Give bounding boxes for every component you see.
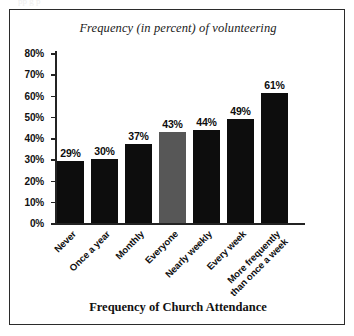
bar[interactable]: 30%	[91, 159, 118, 223]
y-axis-tick: 60%	[51, 96, 56, 98]
bar[interactable]: 49%	[227, 119, 254, 223]
bar-value-label: 43%	[162, 118, 182, 130]
bar-value-label: 49%	[230, 105, 250, 117]
bar-value-label: 29%	[60, 147, 80, 159]
y-axis-tick: 0%	[51, 223, 56, 225]
bar[interactable]: 61%	[261, 93, 288, 223]
y-axis-tick-label: 0%	[30, 218, 44, 229]
x-axis-category-label: Never	[52, 229, 78, 255]
bar-value-label: 30%	[94, 145, 114, 157]
chart-title: Frequency (in percent) of volunteering	[10, 21, 346, 36]
figure-frame: Frequency (in percent) of volunteering 8…	[9, 9, 345, 325]
bar[interactable]: 29%	[57, 161, 84, 223]
y-axis-tick-label: 80%	[25, 48, 44, 59]
plot-area: 80%70%60%50%40%30%20%10%0% 29%Never30%On…	[56, 53, 314, 223]
page-bleed-text: pp g p	[18, 0, 318, 6]
bar[interactable]: 37%	[125, 144, 152, 223]
y-axis-tick-label: 20%	[25, 175, 44, 186]
bar[interactable]: 44%	[193, 130, 220, 224]
y-axis-tick: 70%	[51, 74, 56, 76]
y-axis-tick: 20%	[51, 181, 56, 183]
y-axis-tick: 40%	[51, 138, 56, 140]
y-axis-tick-label: 60%	[25, 90, 44, 101]
x-axis-title: Frequency of Church Attendance	[10, 300, 346, 315]
bar-value-label: 37%	[128, 130, 148, 142]
y-axis-tick-label: 50%	[25, 111, 44, 122]
bar[interactable]: 43%	[159, 132, 186, 223]
y-axis-tick-label: 70%	[25, 69, 44, 80]
bar-value-label: 61%	[264, 79, 284, 91]
y-axis-tick: 50%	[51, 117, 56, 119]
x-axis-category-label: Monthly	[113, 229, 146, 262]
y-axis-tick: 80%	[51, 53, 56, 55]
x-axis-line	[55, 223, 305, 225]
bar-value-label: 44%	[196, 116, 216, 128]
y-axis-tick-label: 40%	[25, 133, 44, 144]
y-axis-tick-label: 30%	[25, 154, 44, 165]
y-axis-tick-label: 10%	[25, 196, 44, 207]
y-axis-tick: 30%	[51, 159, 56, 161]
y-axis-tick: 10%	[51, 202, 56, 204]
